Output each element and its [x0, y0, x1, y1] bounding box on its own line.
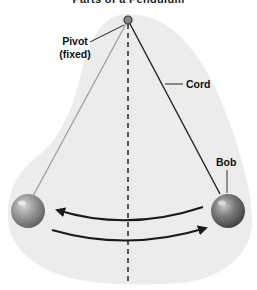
pivot-note-text: (fixed)	[52, 48, 98, 61]
background-blob	[8, 14, 252, 284]
pivot-label-text: Pivot	[52, 35, 98, 48]
diagram-canvas	[0, 0, 257, 290]
bob-right	[211, 194, 245, 228]
bob-right-highlight	[218, 201, 226, 206]
cord-label: Cord	[186, 78, 211, 91]
pivot-label: Pivot (fixed)	[52, 35, 98, 61]
bob-left	[11, 194, 45, 228]
diagram-title: Parts of a Pendulum	[0, 0, 257, 5]
bob-left-highlight	[18, 201, 26, 206]
bob-label: Bob	[216, 156, 236, 169]
pivot-icon	[124, 16, 132, 24]
pendulum-diagram: Parts of a Pendulum Pivot (fixed) Cord B…	[0, 0, 257, 290]
